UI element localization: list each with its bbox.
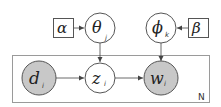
node-d: d i <box>22 61 56 95</box>
svg-text:j: j <box>104 34 107 42</box>
node-theta: θ j <box>85 13 115 43</box>
svg-text:w: w <box>150 69 164 88</box>
node-z: z i <box>85 63 115 93</box>
svg-text:α: α <box>57 19 67 37</box>
node-phi: ϕ k <box>146 13 176 43</box>
svg-text:i: i <box>42 82 44 90</box>
svg-text:d: d <box>29 68 40 88</box>
svg-text:z: z <box>91 69 101 88</box>
svg-text:i: i <box>104 80 106 88</box>
svg-text:i: i <box>164 80 166 88</box>
node-w: w i <box>144 61 178 95</box>
svg-text:θ: θ <box>92 18 102 37</box>
svg-text:β: β <box>191 19 201 37</box>
graphical-model-diagram: N α θ j ϕ k β d i z i w i <box>0 0 221 107</box>
plate-label: N <box>198 92 205 102</box>
svg-text:ϕ: ϕ <box>152 18 163 37</box>
node-beta: β <box>189 19 209 38</box>
node-alpha: α <box>54 19 74 38</box>
